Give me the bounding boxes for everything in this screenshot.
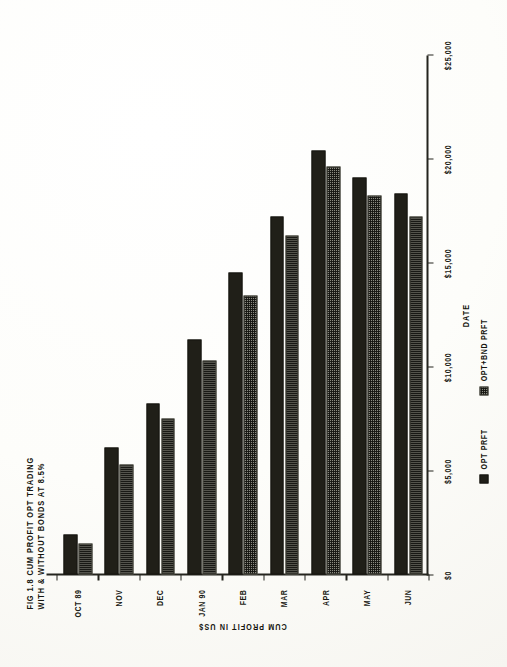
bar-jun-opt-prft xyxy=(394,193,408,574)
legend-item-opt-bnd-prft[interactable]: OPT+BND PRFT xyxy=(479,319,488,395)
category-tick xyxy=(97,574,98,580)
y-axis-title: CUM PROFIT IN US$ xyxy=(198,622,287,633)
bar-group xyxy=(304,54,345,574)
bar-group xyxy=(97,54,138,574)
bar-group xyxy=(56,54,97,574)
legend: OPT PRFTOPT+BND PRFT xyxy=(479,319,488,483)
bar-group xyxy=(263,54,304,574)
value-tick xyxy=(427,262,433,263)
bar-nov-opt-prft xyxy=(104,447,118,574)
category-tick xyxy=(56,574,57,580)
rotated-figure-wrapper: FIG 1.8 CUM PROFIT OPT TRADING WITH & WI… xyxy=(0,0,507,667)
value-tick xyxy=(427,158,433,159)
bar-group xyxy=(345,54,386,574)
chart-title: FIG 1.8 CUM PROFIT OPT TRADING WITH & WI… xyxy=(22,456,45,609)
scanned-page: FIG 1.8 CUM PROFIT OPT TRADING WITH & WI… xyxy=(0,0,507,667)
legend-label: OPT PRFT xyxy=(479,429,488,469)
plot-area: $0$5,000$10,000$15,000$20,000$25,000 OCT… xyxy=(56,55,428,575)
category-tick xyxy=(345,574,346,580)
legend-swatch-icon xyxy=(479,386,488,395)
bar-oct-89-opt-prft xyxy=(63,534,77,574)
legend-swatch-icon xyxy=(479,474,488,483)
x-axis-title: DATE xyxy=(460,303,471,326)
bar-apr-opt-prft xyxy=(311,150,325,574)
category-tick xyxy=(304,574,305,580)
bar-nov-opt-bnd-prft xyxy=(119,464,133,574)
category-label-dec: DEC xyxy=(155,589,164,606)
figure: FIG 1.8 CUM PROFIT OPT TRADING WITH & WI… xyxy=(0,0,507,667)
bar-group xyxy=(221,54,262,574)
value-label-0: $0 xyxy=(443,571,452,580)
value-label-25000: $25,000 xyxy=(443,40,452,70)
bar-group xyxy=(139,54,180,574)
category-label-feb: FEB xyxy=(238,589,247,605)
chart-title-line-2: WITH & WITHOUT BONDS AT 8.5% xyxy=(33,456,47,609)
value-label-15000: $15,000 xyxy=(443,248,452,278)
legend-label: OPT+BND PRFT xyxy=(479,319,488,381)
category-label-mar: MAR xyxy=(279,589,288,607)
category-label-jun: JUN xyxy=(403,589,412,605)
bar-feb-opt-bnd-prft xyxy=(243,295,257,574)
legend-item-opt-prft[interactable]: OPT PRFT xyxy=(479,429,488,483)
bar-jan-90-opt-prft xyxy=(187,339,201,574)
bar-dec-opt-bnd-prft xyxy=(161,418,175,574)
value-tick xyxy=(427,54,433,55)
bar-jun-opt-bnd-prft xyxy=(409,216,423,574)
bar-oct-89-opt-bnd-prft xyxy=(78,543,92,574)
bar-group xyxy=(387,54,428,574)
value-label-5000: $5,000 xyxy=(443,458,452,483)
value-tick xyxy=(427,366,433,367)
category-label-nov: NOV xyxy=(114,589,123,606)
bar-may-opt-bnd-prft xyxy=(367,195,381,574)
category-label-oct-89: OCT 89 xyxy=(72,589,81,617)
category-label-jan-90: JAN 90 xyxy=(196,589,205,616)
bar-mar-opt-prft xyxy=(270,216,284,574)
bar-feb-opt-prft xyxy=(228,272,242,574)
value-label-10000: $10,000 xyxy=(443,352,452,382)
bar-may-opt-prft xyxy=(352,177,366,574)
category-tick xyxy=(139,574,140,580)
value-tick xyxy=(427,470,433,471)
value-label-20000: $20,000 xyxy=(443,144,452,174)
category-label-may: MAY xyxy=(362,589,371,606)
bar-mar-opt-bnd-prft xyxy=(285,235,299,574)
category-label-apr: APR xyxy=(320,589,329,606)
category-tick xyxy=(180,574,181,580)
bar-apr-opt-bnd-prft xyxy=(326,166,340,574)
category-tick xyxy=(221,574,222,580)
bar-jan-90-opt-bnd-prft xyxy=(202,360,216,574)
bar-dec-opt-prft xyxy=(146,403,160,574)
category-tick xyxy=(387,574,388,580)
category-tick xyxy=(263,574,264,580)
value-tick xyxy=(427,574,433,575)
bar-group xyxy=(180,54,221,574)
